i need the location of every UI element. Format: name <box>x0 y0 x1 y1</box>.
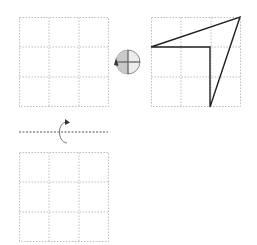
source-grid <box>20 18 109 107</box>
answer-grid <box>20 153 109 242</box>
flip-arrow-icon <box>65 119 70 125</box>
transformation-diagram <box>0 0 257 245</box>
flip-axis <box>19 119 108 143</box>
rotation-dial-icon <box>114 50 140 74</box>
shape-outline <box>151 17 240 107</box>
shape-grid <box>152 18 241 107</box>
